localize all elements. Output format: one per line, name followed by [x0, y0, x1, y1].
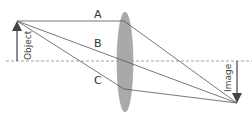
convex-lens — [117, 12, 133, 112]
label-ray-c: C — [94, 74, 102, 87]
label-ray-b: B — [94, 37, 102, 50]
ray-diagram: A B C Object Image — [0, 0, 252, 123]
label-ray-a: A — [94, 8, 102, 21]
label-object: Object — [23, 30, 33, 60]
label-image: Image — [223, 63, 233, 92]
